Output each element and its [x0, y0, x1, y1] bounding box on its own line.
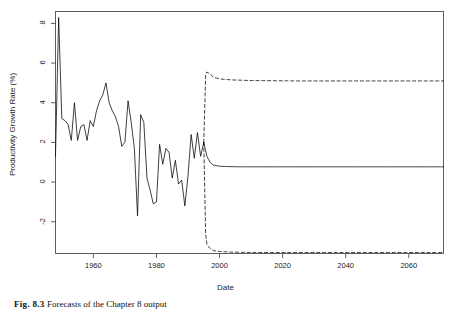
y-tick-label: -2 — [37, 211, 46, 231]
y-tick-label: 6 — [37, 53, 46, 73]
x-tick-label: 2000 — [200, 261, 240, 270]
y-tick-label: 0 — [37, 172, 46, 192]
series-line — [204, 142, 444, 166]
series-line — [56, 17, 204, 215]
series-line — [204, 72, 444, 142]
figure-container: Productivity Growth Rate (%) Date Fig. 8… — [0, 0, 451, 310]
x-tick-label: 2040 — [326, 261, 366, 270]
x-tick-label: 2020 — [263, 261, 303, 270]
y-tick-label: 2 — [37, 132, 46, 152]
x-axis-title: Date — [0, 283, 451, 292]
caption-text: Forecasts of the Chapter 8 output — [47, 299, 167, 309]
x-tick-label: 1980 — [136, 261, 176, 270]
figure-caption: Fig. 8.3 Forecasts of the Chapter 8 outp… — [14, 299, 451, 309]
y-axis-title: Productivity Growth Rate (%) — [8, 65, 17, 185]
caption-number: Fig. 8.3 — [14, 299, 45, 309]
x-tick-label: 2060 — [389, 261, 429, 270]
x-tick-label: 1960 — [73, 261, 113, 270]
y-tick-label: 4 — [37, 92, 46, 112]
series-line — [204, 142, 444, 252]
y-tick-label: 8 — [37, 13, 46, 33]
